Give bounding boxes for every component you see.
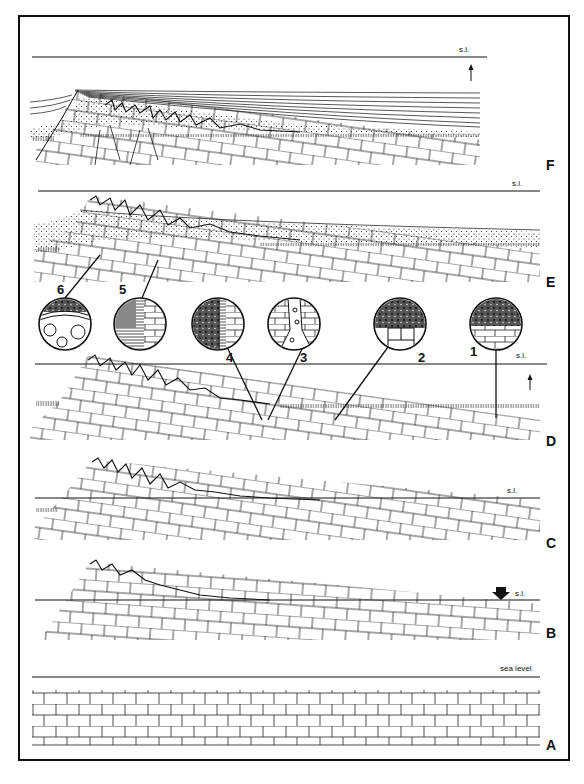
panel-label: A bbox=[546, 737, 556, 753]
geologic-diagram: s.l. F bbox=[0, 0, 584, 784]
arrow-up-icon bbox=[528, 374, 533, 390]
inset-number: 2 bbox=[418, 350, 425, 365]
sea-level-label: s.l. bbox=[459, 45, 469, 54]
hardground-crust bbox=[260, 243, 540, 246]
sea-level-label: s.l. bbox=[512, 179, 522, 188]
panel-label: E bbox=[546, 274, 555, 290]
hatched-layer bbox=[32, 136, 54, 141]
panel-f: s.l. F bbox=[30, 45, 555, 173]
panel-c: s.l. C bbox=[34, 458, 556, 551]
inset-number: 5 bbox=[119, 282, 126, 297]
inset-number: 1 bbox=[470, 344, 477, 359]
panel-label: D bbox=[546, 433, 556, 449]
panel-d: s.l. D bbox=[30, 351, 556, 449]
limestone-platform bbox=[30, 356, 540, 440]
hatched-layer bbox=[36, 508, 58, 512]
sea-level-label: s.l. bbox=[516, 351, 526, 360]
panel-a: sea level A bbox=[32, 664, 556, 753]
panel-label: C bbox=[546, 535, 556, 551]
hardground-crust bbox=[80, 134, 480, 137]
hatched-layer bbox=[36, 401, 60, 406]
inset-1: 1 bbox=[470, 298, 522, 418]
limestone-platform bbox=[40, 562, 540, 640]
panel-label: B bbox=[546, 625, 556, 641]
panel-e: s.l. E bbox=[34, 179, 555, 290]
limestone-platform bbox=[34, 460, 540, 540]
limestone-platform bbox=[32, 690, 540, 745]
sea-level-label: s.l. bbox=[507, 486, 517, 495]
sea-level-label: s.l. bbox=[515, 589, 525, 598]
hatched-layer bbox=[38, 247, 60, 252]
inset-number: 6 bbox=[57, 282, 64, 297]
inset-number: 3 bbox=[300, 350, 307, 365]
hardground-crust bbox=[280, 404, 540, 408]
arrow-up-icon bbox=[469, 64, 474, 81]
arrow-down-bold-icon bbox=[492, 587, 510, 600]
inset-number: 4 bbox=[226, 350, 234, 365]
sea-level-label: sea level bbox=[500, 664, 532, 673]
panel-b: s.l. B bbox=[35, 560, 556, 641]
panel-label: F bbox=[546, 157, 555, 173]
